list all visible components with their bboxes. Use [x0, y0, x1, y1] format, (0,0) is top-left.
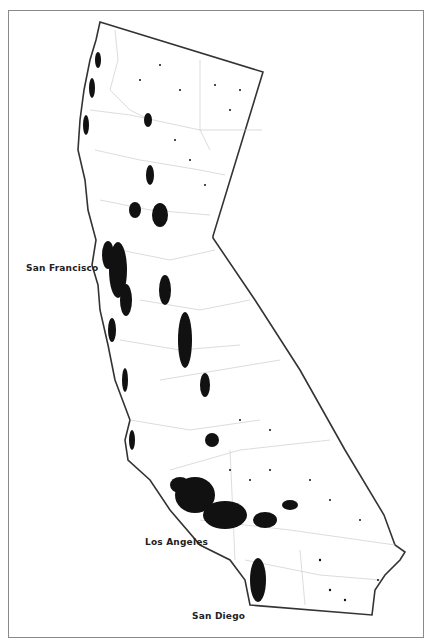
- label-los-angeles: Los Angeles: [145, 537, 208, 547]
- label-san-diego: San Diego: [192, 611, 245, 621]
- label-san-francisco: San Francisco: [26, 263, 98, 273]
- state-outline: [78, 22, 405, 615]
- california-map: [0, 0, 429, 643]
